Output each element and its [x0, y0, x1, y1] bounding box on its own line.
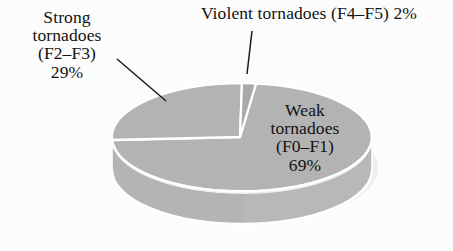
- strong-tornadoes-label: Strong tornadoes (F2–F3) 29%: [6, 8, 128, 81]
- tornado-pie-chart-figure: Strong tornadoes (F2–F3) 29% Violent tor…: [0, 0, 453, 251]
- weak-tornadoes-label: Weak tornadoes (F0–F1) 69%: [243, 101, 367, 174]
- pie-slice-strong: [112, 83, 242, 140]
- strong-label-line-1: Strong: [6, 8, 128, 26]
- weak-label-line-1: Weak: [243, 101, 367, 119]
- weak-label-line-2: tornadoes: [243, 119, 367, 137]
- strong-label-line-3: (F2–F3): [6, 44, 128, 62]
- violent-tornadoes-label: Violent tornadoes (F4–F5) 2%: [168, 4, 450, 22]
- strong-label-line-4: 29%: [6, 63, 128, 81]
- weak-label-line-3: (F0–F1): [243, 137, 367, 155]
- strong-label-line-2: tornadoes: [6, 26, 128, 44]
- weak-label-line-4: 69%: [243, 156, 367, 174]
- violent-label-line-1: Violent tornadoes (F4–F5) 2%: [168, 4, 450, 22]
- leader-line-violent: [247, 31, 252, 74]
